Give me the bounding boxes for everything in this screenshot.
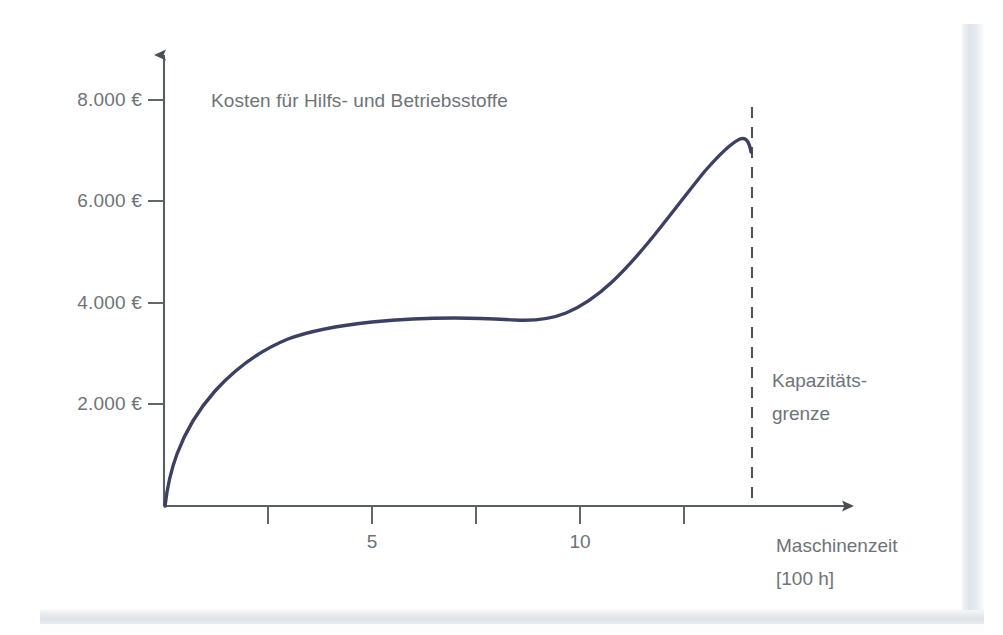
x-axis-unit-label: [100 h] xyxy=(776,568,834,590)
y-tick-label-6000: 6.000 € xyxy=(0,190,142,212)
y-axis-ticks xyxy=(148,100,165,404)
capacity-limit-label-line2: grenze xyxy=(772,403,830,425)
x-axis-label: Maschinenzeit xyxy=(776,535,897,557)
capacity-limit-label-line1: Kapazitäts- xyxy=(772,370,867,392)
chart-page: 8.000 € 6.000 € 4.000 € 2.000 € 5 10 Kos… xyxy=(0,0,1003,635)
y-tick-label-2000: 2.000 € xyxy=(0,393,142,415)
x-axis-ticks xyxy=(268,506,684,524)
cost-curve xyxy=(165,138,751,506)
y-tick-label-8000: 8.000 € xyxy=(0,89,142,111)
x-tick-label-5: 5 xyxy=(342,531,402,553)
y-tick-label-4000: 4.000 € xyxy=(0,292,142,314)
x-tick-label-10: 10 xyxy=(550,531,610,553)
chart-title: Kosten für Hilfs- und Betriebsstoffe xyxy=(211,90,508,112)
